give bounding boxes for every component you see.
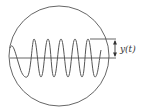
amplitude-label: y(t) (119, 44, 136, 54)
circle-boundary (9, 6, 109, 106)
arrow-down-icon (113, 53, 117, 58)
arrow-up-icon (113, 40, 117, 45)
diagram-canvas: y(t) (0, 0, 141, 112)
